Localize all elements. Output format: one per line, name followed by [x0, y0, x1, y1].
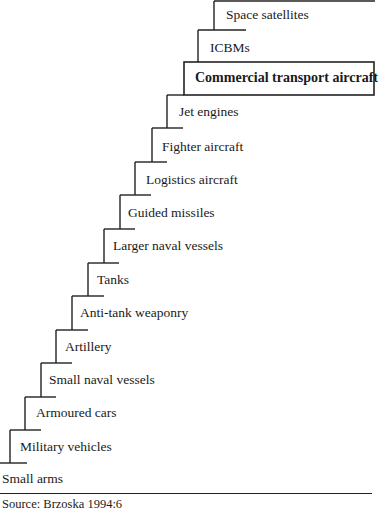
- step-label-anti-tank-weaponry: Anti-tank weaponry: [80, 305, 188, 321]
- step-label-logistics-aircraft: Logistics aircraft: [146, 172, 238, 188]
- step-label-military-vehicles: Military vehicles: [20, 439, 112, 455]
- source-caption: Source: Brzoska 1994:6: [2, 497, 122, 512]
- step-label-small-arms: Small arms: [2, 471, 63, 487]
- step-label-larger-naval-vessels: Larger naval vessels: [113, 238, 223, 254]
- step-label-jet-engines: Jet engines: [179, 104, 239, 120]
- step-label-commercial-transport-aircraft: Commercial transport aircraft: [195, 70, 378, 86]
- step-label-icbms: ICBMs: [210, 40, 250, 56]
- step-label-artillery: Artillery: [65, 339, 112, 355]
- step-label-armoured-cars: Armoured cars: [36, 405, 117, 421]
- step-label-small-naval-vessels: Small naval vessels: [49, 372, 155, 388]
- step-label-tanks: Tanks: [97, 272, 129, 288]
- step-label-guided-missiles: Guided missiles: [128, 205, 215, 221]
- step-label-space-satellites: Space satellites: [226, 7, 309, 23]
- step-label-fighter-aircraft: Fighter aircraft: [162, 139, 243, 155]
- bottom-rule-divider: [0, 493, 372, 494]
